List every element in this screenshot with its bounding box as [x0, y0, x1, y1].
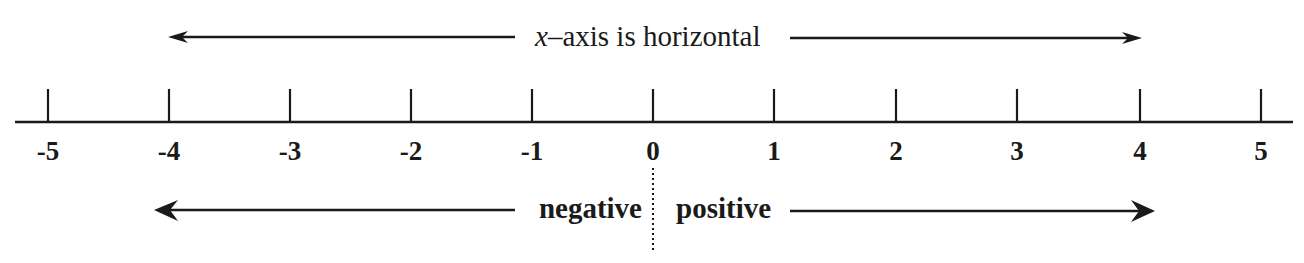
tick-label: -3: [279, 136, 302, 167]
tick-label: 1: [767, 136, 781, 167]
tick-label: 0: [646, 136, 660, 167]
tick-label: -1: [521, 136, 544, 167]
tick-label: -2: [400, 136, 423, 167]
axis-caption: x–axis is horizontal: [529, 20, 767, 53]
tick-label: 2: [889, 136, 903, 167]
bottom-direction-arrows: [154, 200, 1155, 222]
tick-label: -5: [37, 136, 60, 167]
axis-caption-text: –axis is horizontal: [548, 20, 761, 52]
tick-marks: [48, 89, 1261, 122]
axis-variable: x: [535, 20, 548, 52]
tick-label: 5: [1254, 136, 1268, 167]
positive-label: positive: [670, 192, 777, 225]
tick-label: -4: [158, 136, 181, 167]
tick-label: 3: [1010, 136, 1024, 167]
tick-label: 4: [1133, 136, 1147, 167]
negative-label: negative: [533, 192, 648, 225]
